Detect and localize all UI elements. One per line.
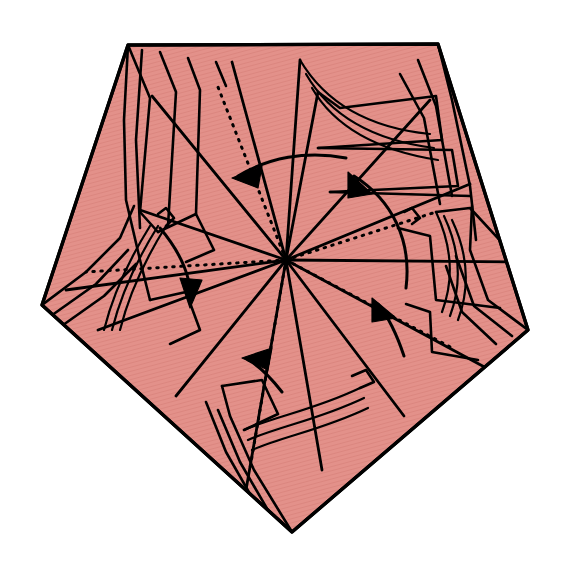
origami-figure bbox=[0, 0, 568, 577]
crease-r8 bbox=[286, 260, 520, 262]
origami-diagram-stage bbox=[0, 0, 568, 577]
